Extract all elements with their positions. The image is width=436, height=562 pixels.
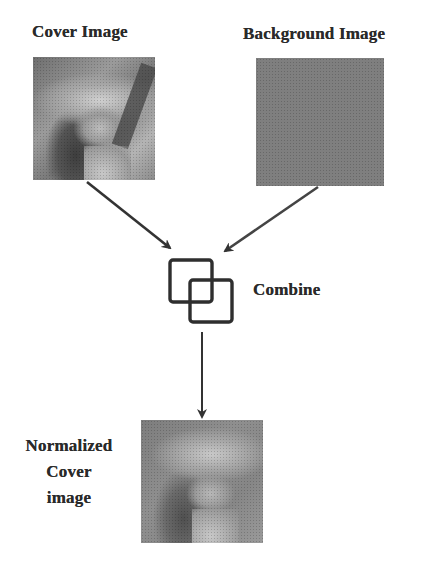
normalized-cover-label: Normalized Cover image xyxy=(8,433,130,511)
arrow-background-to-combine xyxy=(225,187,318,251)
combine-label: Combine xyxy=(253,280,321,300)
output-label-line-1: Normalized xyxy=(8,433,130,459)
overlapping-squares-icon xyxy=(170,260,232,322)
arrow-cover-to-combine xyxy=(87,182,170,248)
normalized-cover-image xyxy=(141,420,263,543)
output-label-line-3: image xyxy=(8,485,130,511)
output-label-line-2: Cover xyxy=(8,459,130,485)
